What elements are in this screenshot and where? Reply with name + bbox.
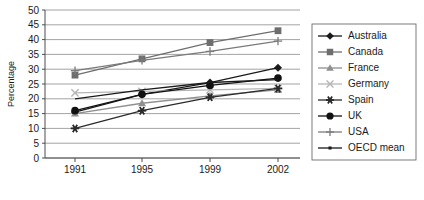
x-tick-label: 2002 (267, 164, 290, 175)
legend-item-label: UK (348, 110, 362, 121)
line-chart: 05101520253035404550 1991199519992002 Pe… (0, 0, 424, 200)
y-tick-label: 5 (33, 138, 39, 149)
series-line (75, 31, 278, 75)
x-tick-label: 1999 (199, 164, 222, 175)
chart-canvas: 05101520253035404550 1991199519992002 Pe… (0, 0, 424, 200)
data-point-marker (274, 74, 282, 82)
y-tick-label: 45 (28, 19, 40, 30)
legend-item-label: Spain (348, 94, 374, 105)
y-tick-label: 20 (28, 93, 40, 104)
legend-item-uk[interactable]: UK (318, 110, 362, 121)
y-tick-label: 15 (28, 108, 40, 119)
series-line (75, 41, 278, 71)
data-point-marker (275, 27, 282, 34)
data-point-marker (138, 107, 146, 114)
data-point-marker (138, 91, 146, 99)
legend-item-oecd-mean[interactable]: OECD mean (318, 142, 405, 153)
x-tick-label: 1995 (131, 164, 154, 175)
legend-item-france[interactable]: France (318, 62, 380, 73)
legend-box (312, 24, 416, 160)
gridlines (45, 10, 300, 158)
y-axis-title-text: Percentage (6, 61, 16, 107)
y-axis-title: Percentage (6, 61, 16, 107)
data-point-marker (326, 97, 334, 104)
y-tick-label: 0 (33, 153, 39, 164)
data-point-marker (327, 49, 333, 55)
data-point-marker (326, 32, 334, 40)
x-axis-tick-labels: 1991199519992002 (64, 158, 290, 175)
series-line (75, 90, 278, 114)
data-point-marker (71, 107, 79, 115)
y-tick-label: 10 (28, 123, 40, 134)
legend-item-usa[interactable]: USA (318, 126, 369, 137)
data-point-marker (71, 125, 79, 132)
y-tick-label: 35 (28, 49, 40, 60)
y-tick-label: 50 (28, 5, 40, 16)
x-tick-label: 1991 (64, 164, 87, 175)
data-point-marker (328, 146, 331, 149)
data-point-marker (207, 39, 214, 46)
legend-item-label: France (348, 62, 380, 73)
data-point-marker (274, 37, 282, 45)
legend-item-label: Germany (348, 78, 389, 89)
data-point-marker (326, 112, 333, 119)
data-point-marker (326, 128, 334, 136)
series-canada (72, 27, 282, 78)
legend[interactable]: AustraliaCanadaFranceGermanySpainUKUSAOE… (312, 24, 416, 160)
y-axis-tick-labels: 05101520253035404550 (28, 5, 45, 164)
data-point-marker (274, 64, 282, 72)
legend-item-label: Australia (348, 30, 387, 41)
legend-item-germany[interactable]: Germany (318, 78, 389, 89)
y-tick-label: 40 (28, 34, 40, 45)
legend-item-label: Canada (348, 46, 383, 57)
y-tick-label: 30 (28, 64, 40, 75)
legend-item-label: OECD mean (348, 142, 405, 153)
legend-item-australia[interactable]: Australia (318, 30, 387, 41)
legend-item-canada[interactable]: Canada (318, 46, 383, 57)
y-tick-label: 25 (28, 79, 40, 90)
legend-item-spain[interactable]: Spain (318, 94, 374, 105)
data-series (71, 27, 282, 132)
legend-item-label: USA (348, 126, 369, 137)
